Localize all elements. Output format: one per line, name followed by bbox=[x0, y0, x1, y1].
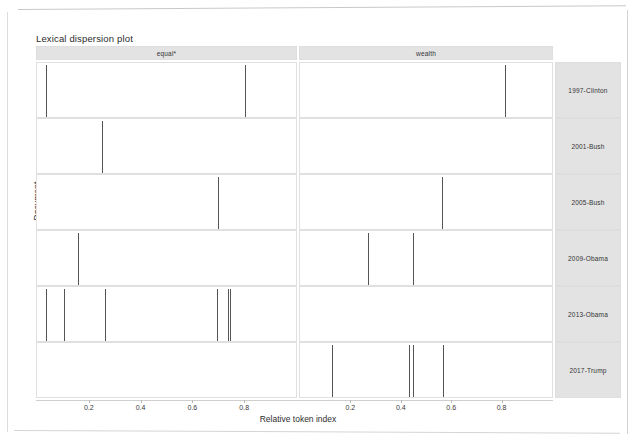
facet-panel bbox=[299, 230, 553, 286]
x-axis-tick bbox=[244, 400, 245, 403]
facet-row-3: 2009-Obama bbox=[36, 230, 553, 286]
facet-panel bbox=[299, 174, 553, 230]
facet-row-label: 1997-Clinton bbox=[568, 87, 607, 94]
facet-panel bbox=[299, 342, 553, 398]
dispersion-tick bbox=[102, 121, 103, 173]
facet-panel bbox=[36, 174, 297, 230]
x-axis-tick bbox=[192, 400, 193, 403]
x-axis-tick-label: 0.4 bbox=[396, 404, 406, 411]
dispersion-tick bbox=[413, 345, 414, 397]
facet-column-strip-0: equal* bbox=[36, 46, 297, 60]
dispersion-tick bbox=[368, 233, 369, 285]
facet-panel bbox=[299, 118, 553, 174]
dispersion-tick bbox=[217, 289, 218, 341]
x-axis-tick bbox=[401, 400, 402, 403]
dispersion-tick bbox=[409, 345, 410, 397]
facet-row-label: 2009-Obama bbox=[568, 255, 608, 262]
x-axis-tick bbox=[89, 400, 90, 403]
facet-row-strip-3: 2009-Obama bbox=[555, 230, 621, 286]
dispersion-tick bbox=[78, 233, 79, 285]
facet-row-strip-0: 1997-Clinton bbox=[555, 62, 621, 118]
facet-panel bbox=[36, 230, 297, 286]
x-axis-tick-label: 0.6 bbox=[446, 404, 456, 411]
facet-row-5: 2017-Trump bbox=[36, 342, 553, 398]
lexical-dispersion-plot: Lexical dispersion plot Document equal*w… bbox=[0, 0, 632, 439]
dispersion-tick bbox=[230, 289, 231, 341]
facet-panel bbox=[36, 286, 297, 342]
facet-row-strip-5: 2017-Trump bbox=[555, 342, 621, 398]
dispersion-tick bbox=[413, 233, 414, 285]
facet-panel-area: equal*wealth1997-Clinton2001-Bush2005-Bu… bbox=[36, 46, 553, 400]
dispersion-tick bbox=[228, 289, 229, 341]
facet-row-label: 2017-Trump bbox=[569, 367, 606, 374]
facet-row-strip-2: 2005-Bush bbox=[555, 174, 621, 230]
facet-row-label: 2005-Bush bbox=[571, 199, 604, 206]
dispersion-tick bbox=[245, 65, 246, 117]
dispersion-tick bbox=[218, 177, 219, 229]
facet-row-4: 2013-Obama bbox=[36, 286, 553, 342]
dispersion-tick bbox=[505, 65, 506, 117]
x-axis-tick bbox=[350, 400, 351, 403]
x-axis-title-label: Relative token index bbox=[260, 414, 337, 424]
facet-row-strip-1: 2001-Bush bbox=[555, 118, 621, 174]
x-axis: 0.20.40.60.80.20.40.60.8 bbox=[36, 400, 553, 414]
chart-title: Lexical dispersion plot bbox=[36, 33, 133, 44]
x-axis-tick-label: 0.6 bbox=[188, 404, 198, 411]
x-axis-tick bbox=[502, 400, 503, 403]
facet-panel bbox=[299, 62, 553, 118]
facet-panel bbox=[299, 286, 553, 342]
facet-column-label: equal* bbox=[157, 50, 177, 57]
facet-row-1: 2001-Bush bbox=[36, 118, 553, 174]
x-axis-tick-label: 0.2 bbox=[346, 404, 356, 411]
dispersion-tick bbox=[105, 289, 106, 341]
dispersion-tick bbox=[332, 345, 333, 397]
facet-panel bbox=[36, 118, 297, 174]
facet-column-strip-1: wealth bbox=[299, 46, 553, 60]
facet-panel bbox=[36, 342, 297, 398]
facet-panel bbox=[36, 62, 297, 118]
dispersion-tick bbox=[46, 65, 47, 117]
x-axis-tick bbox=[451, 400, 452, 403]
x-axis-tick-label: 0.8 bbox=[497, 404, 507, 411]
x-axis-title: Relative token index bbox=[0, 414, 632, 424]
facet-row-label: 2001-Bush bbox=[571, 143, 604, 150]
x-axis-tick-label: 0.2 bbox=[84, 404, 94, 411]
facet-row-0: 1997-Clinton bbox=[36, 62, 553, 118]
dispersion-tick bbox=[64, 289, 65, 341]
facet-row-label: 2013-Obama bbox=[568, 311, 608, 318]
x-axis-tick bbox=[141, 400, 142, 403]
facet-column-label: wealth bbox=[416, 50, 436, 57]
x-axis-tick-label: 0.8 bbox=[239, 404, 249, 411]
facet-row-2: 2005-Bush bbox=[36, 174, 553, 230]
facet-row-strip-4: 2013-Obama bbox=[555, 286, 621, 342]
dispersion-tick bbox=[442, 177, 443, 229]
dispersion-tick bbox=[46, 289, 47, 341]
x-axis-line bbox=[36, 400, 553, 401]
x-axis-tick-label: 0.4 bbox=[136, 404, 146, 411]
dispersion-tick bbox=[443, 345, 444, 397]
